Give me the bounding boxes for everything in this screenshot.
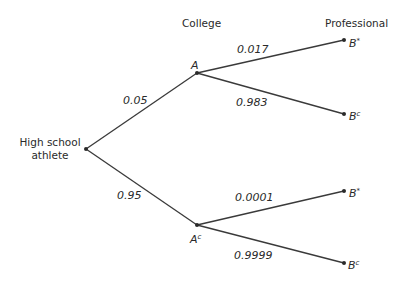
edge-A-B <box>197 40 344 73</box>
root-label: High school athlete <box>18 136 82 162</box>
edge-label-Ac-Bc: 0.9999 <box>234 250 273 262</box>
node-B1c-label: Bc <box>349 108 360 123</box>
edge-A-Bc <box>197 73 344 114</box>
edge-label-root-Ac: 0.95 <box>117 190 142 202</box>
root-label-line2: athlete <box>18 149 82 162</box>
edge-root-A <box>86 73 197 149</box>
node-root-dot <box>84 147 88 151</box>
edge-label-root-A: 0.05 <box>123 95 148 107</box>
node-B1c-dot <box>342 112 346 116</box>
node-B2c-dot <box>342 261 346 265</box>
edge-label-A-Bc: 0.983 <box>236 97 268 109</box>
node-B2-label: B* <box>349 185 360 200</box>
edge-label-Ac-B: 0.0001 <box>235 192 274 204</box>
node-B2-dot <box>342 189 346 193</box>
node-Ac-dot <box>195 223 199 227</box>
edge-root-Ac <box>86 149 197 225</box>
node-B1-dot <box>342 38 346 42</box>
node-B1-label: B* <box>349 35 360 50</box>
edge-label-A-B: 0.017 <box>237 44 269 56</box>
node-B2c-label: Bc <box>348 257 359 272</box>
node-A-label: A <box>191 57 199 72</box>
node-Ac-label: Ac <box>190 231 201 246</box>
header-college: College <box>182 17 221 29</box>
root-label-line1: High school <box>18 136 82 149</box>
header-professional: Professional <box>325 17 388 29</box>
